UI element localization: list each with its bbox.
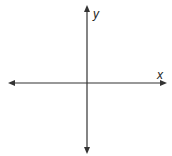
x-axis-label: x (156, 68, 164, 82)
y-axis (84, 5, 90, 154)
coordinate-plane: y x (0, 0, 172, 156)
y-axis-down-arrow-icon (84, 147, 90, 154)
y-axis-label: y (92, 7, 100, 21)
y-axis-up-arrow-icon (84, 5, 90, 12)
x-axis-left-arrow-icon (8, 80, 15, 86)
